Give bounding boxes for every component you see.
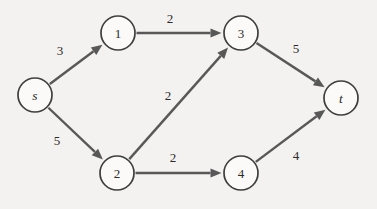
node-3[interactable]: 3	[224, 16, 258, 50]
node-label-2: 2	[114, 166, 121, 181]
node-1[interactable]: 1	[101, 16, 135, 50]
node-label-1: 1	[115, 26, 122, 41]
edge-weight-2-4: 2	[170, 150, 177, 165]
arrow-head-icon	[211, 168, 222, 177]
node-label-4: 4	[238, 166, 245, 181]
node-t[interactable]: t	[324, 81, 358, 115]
edge-weight-3-t: 5	[293, 41, 300, 56]
graph-canvas: s1234t 3522254	[0, 0, 377, 209]
arrow-head-icon	[313, 78, 325, 88]
edge-4-to-t	[256, 110, 326, 162]
edge-weight-2-3: 2	[165, 88, 172, 103]
edges-layer	[48, 28, 325, 177]
flow-network-diagram: s1234t 3522254	[0, 0, 377, 209]
node-s[interactable]: s	[18, 78, 52, 112]
edge-weight-s-2: 5	[54, 133, 61, 148]
edge-weight-1-3: 2	[167, 11, 174, 26]
node-2[interactable]: 2	[100, 156, 134, 190]
node-4[interactable]: 4	[224, 156, 258, 190]
node-label-s: s	[32, 88, 37, 103]
edge-3-to-t	[257, 43, 325, 87]
node-label-3: 3	[238, 26, 245, 41]
edge-1-to-3	[137, 28, 222, 37]
edge-weight-s-1: 3	[57, 43, 64, 58]
nodes-layer: s1234t	[18, 16, 358, 190]
arrow-head-icon	[211, 28, 222, 37]
edge-2-to-4	[136, 168, 222, 177]
edge-2-to-3	[129, 48, 228, 160]
edge-weight-4-t: 4	[293, 148, 300, 163]
